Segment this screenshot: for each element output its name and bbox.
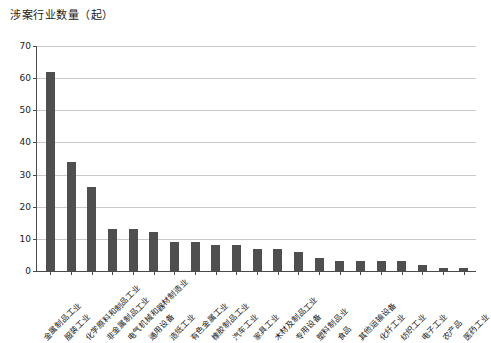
x-tick-mark: [422, 272, 423, 275]
bar[interactable]: [191, 242, 200, 271]
y-tick-label: 10: [20, 234, 31, 244]
bar-slot[interactable]: [247, 46, 268, 271]
y-tick-label: 70: [20, 41, 31, 51]
x-tick-mark: [464, 272, 465, 275]
x-tick-mark: [340, 272, 341, 275]
x-tick-mark: [216, 272, 217, 275]
bar-slot[interactable]: [267, 46, 288, 271]
bar[interactable]: [253, 249, 262, 272]
bar-slot[interactable]: [350, 46, 371, 271]
bar[interactable]: [335, 261, 344, 271]
y-tick-label: 20: [20, 202, 31, 212]
plot-area: 010203040506070: [36, 46, 476, 272]
x-tick-mark: [71, 272, 72, 275]
bar[interactable]: [356, 261, 365, 271]
x-tick-mark: [174, 272, 175, 275]
bar-slot[interactable]: [433, 46, 454, 271]
bar-slot[interactable]: [164, 46, 185, 271]
x-tick-label: 医药工业: [460, 311, 491, 342]
x-tick-mark: [236, 272, 237, 275]
bar-slot[interactable]: [61, 46, 82, 271]
bar-slot[interactable]: [309, 46, 330, 271]
bar-slot[interactable]: [123, 46, 144, 271]
bar[interactable]: [273, 249, 282, 272]
bar[interactable]: [149, 232, 158, 271]
x-tick-mark: [381, 272, 382, 275]
y-tick-label: 50: [20, 105, 31, 115]
bar-slot[interactable]: [453, 46, 474, 271]
bar[interactable]: [129, 229, 138, 271]
bar-slot[interactable]: [81, 46, 102, 271]
x-tick-mark: [360, 272, 361, 275]
x-axis-line: [36, 271, 476, 272]
x-tick-mark: [257, 272, 258, 275]
x-tick-mark: [154, 272, 155, 275]
bar[interactable]: [46, 72, 55, 271]
bar[interactable]: [459, 268, 468, 271]
x-tick-mark: [50, 272, 51, 275]
bar[interactable]: [211, 245, 220, 271]
bar[interactable]: [397, 261, 406, 271]
bar-slot[interactable]: [371, 46, 392, 271]
bar[interactable]: [67, 162, 76, 271]
x-tick-mark: [92, 272, 93, 275]
bar[interactable]: [418, 265, 427, 271]
bar-slot[interactable]: [288, 46, 309, 271]
bar[interactable]: [108, 229, 117, 271]
bar[interactable]: [439, 268, 448, 271]
x-tick-mark: [402, 272, 403, 275]
x-tick-mark: [112, 272, 113, 275]
bar-slot[interactable]: [40, 46, 61, 271]
y-tick-label: 40: [20, 137, 31, 147]
bar-slot[interactable]: [329, 46, 350, 271]
bar-slot[interactable]: [102, 46, 123, 271]
x-tick-mark: [298, 272, 299, 275]
y-tick-label: 60: [20, 73, 31, 83]
bar[interactable]: [315, 258, 324, 271]
bar[interactable]: [294, 252, 303, 271]
bar[interactable]: [232, 245, 241, 271]
x-axis-labels: 金属制品工业服装工业化学原料和制品工业非金属制品工业电气机械和器材制造业通用设备…: [36, 276, 476, 342]
bar-slot[interactable]: [185, 46, 206, 271]
bar-slot[interactable]: [143, 46, 164, 271]
bar[interactable]: [170, 242, 179, 271]
bar-slot[interactable]: [391, 46, 412, 271]
x-tick-mark: [443, 272, 444, 275]
bar-slot[interactable]: [205, 46, 226, 271]
y-tick-label: 30: [20, 170, 31, 180]
bar[interactable]: [377, 261, 386, 271]
chart-title: 涉案行业数量（起）: [10, 6, 114, 22]
x-tick-mark: [133, 272, 134, 275]
y-tick-label: 0: [25, 266, 31, 276]
bar-series: [37, 46, 476, 271]
bar-slot[interactable]: [226, 46, 247, 271]
x-tick-mark: [195, 272, 196, 275]
bar-slot[interactable]: [412, 46, 433, 271]
x-tick-mark: [278, 272, 279, 275]
x-tick-mark: [319, 272, 320, 275]
bar[interactable]: [87, 187, 96, 271]
